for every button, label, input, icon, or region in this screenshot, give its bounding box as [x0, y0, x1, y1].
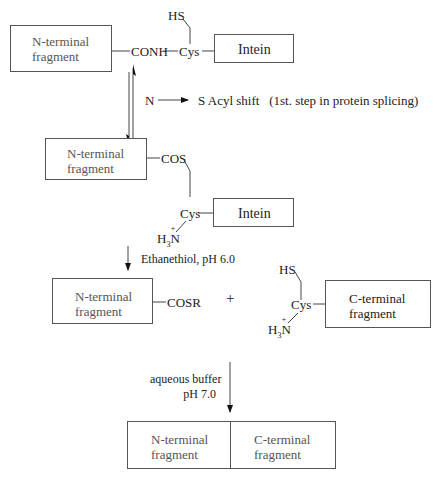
amine-n: N	[170, 231, 179, 246]
conh-linkage: CONH	[131, 44, 168, 59]
label-line: fragment	[254, 447, 310, 462]
label-line: N-terminal	[151, 432, 208, 447]
label-line: C-terminal	[349, 291, 405, 306]
n-terminal-label-3: N-terminal fragment	[75, 289, 132, 319]
hs-sidechain-1: HS	[168, 8, 185, 23]
connector-lines	[0, 0, 444, 486]
label-line: N-terminal	[75, 289, 132, 304]
label-line: fragment	[151, 447, 208, 462]
condition-line: aqueous buffer	[150, 372, 216, 387]
n-terminal-label-2: N-terminal fragment	[67, 146, 124, 176]
acyl-shift-note: (1st. step in protein splicing)	[269, 93, 418, 108]
label-line: N-terminal	[32, 34, 89, 49]
ethanethiol-condition: Ethanethiol, pH 6.0	[141, 252, 235, 267]
cys-residue-3: Cys	[291, 297, 311, 312]
n-label: N	[145, 93, 154, 108]
plus-sign: +	[226, 291, 234, 306]
amine-group-3: H3N+	[268, 322, 295, 337]
label-line: fragment	[349, 306, 405, 321]
cosr-thioester: COSR	[167, 295, 201, 310]
label-line: fragment	[67, 161, 124, 176]
condition-line: pH 7.0	[150, 387, 216, 402]
amine-charge: +	[171, 224, 176, 233]
cys-residue-2: Cys	[180, 206, 200, 221]
label-line: N-terminal	[67, 146, 124, 161]
cys-residue-1: Cys	[179, 44, 199, 59]
amine-n: N	[281, 322, 290, 337]
product-c-terminal-label: C-terminal fragment	[254, 432, 310, 462]
amine-group-2: H3N+	[157, 231, 184, 246]
product-divider	[230, 421, 231, 469]
cos-linkage: COS	[161, 151, 186, 166]
intein-label-1: Intein	[238, 42, 271, 57]
amine-h: H	[268, 322, 277, 337]
label-line: C-terminal	[254, 432, 310, 447]
aqueous-buffer-condition: aqueous buffer pH 7.0	[150, 372, 216, 402]
label-line: fragment	[75, 304, 132, 319]
c-terminal-label-3: C-terminal fragment	[349, 291, 405, 321]
label-line: fragment	[32, 49, 89, 64]
amine-h: H	[157, 231, 166, 246]
product-n-terminal-label: N-terminal fragment	[151, 432, 208, 462]
amine-charge: +	[282, 315, 287, 324]
acyl-shift-label: S Acyl shift (1st. step in protein splic…	[198, 93, 418, 108]
acyl-shift-text: S Acyl shift	[198, 93, 259, 108]
n-terminal-label-1: N-terminal fragment	[32, 34, 89, 64]
intein-label-2: Intein	[238, 206, 271, 221]
hs-sidechain-3: HS	[279, 262, 296, 277]
